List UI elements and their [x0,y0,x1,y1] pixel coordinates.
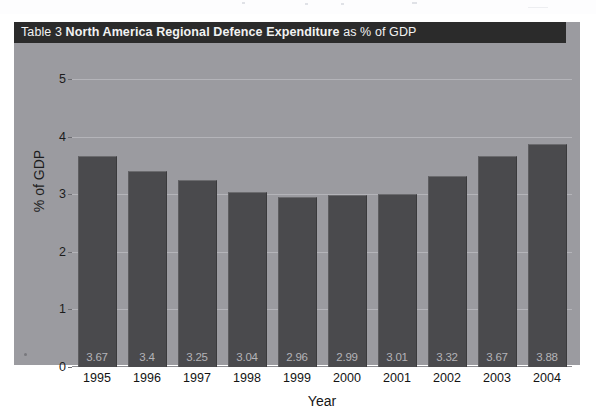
scan-dot-artifact [24,353,27,356]
x-axis-tick-label: 1995 [72,371,122,385]
bar[interactable]: 3.25 [178,180,217,367]
y-axis-tick-label: 5 [44,72,66,86]
y-axis-tick-label: 4 [44,130,66,144]
x-axis-tick-label: 2002 [422,371,472,385]
bar-value-label: 3.67 [79,351,116,363]
bar[interactable]: 2.99 [328,195,367,367]
bar-value-label: 3.04 [229,351,266,363]
bar-slot: 2.961999 [272,79,322,367]
x-axis-tick-label: 2000 [322,371,372,385]
table-label: Table 3 [21,25,62,39]
bar-slot: 2.992000 [322,79,372,367]
bar[interactable]: 3.32 [428,176,467,367]
y-axis-tick-label: 0 [44,360,66,374]
x-axis-tick-label: 1999 [272,371,322,385]
chart-figure: Table 3 North America Regional Defence E… [14,22,580,365]
x-axis-tick-label: 2003 [472,371,522,385]
x-axis-tick-label: 1998 [222,371,272,385]
bar-slot: 3.41996 [122,79,172,367]
bar-value-label: 3.25 [179,351,216,363]
x-axis-tick-label: 2001 [372,371,422,385]
y-axis-tick-mark [68,367,72,368]
bar-value-label: 3.88 [529,351,566,363]
bar-value-label: 3.01 [379,351,416,363]
x-axis-tick-label: 1997 [172,371,222,385]
y-axis-title: % of GDP [31,136,47,226]
bar[interactable]: 3.67 [478,156,517,367]
bar-value-label: 3.32 [429,351,466,363]
plot-area: 3.6719953.419963.2519973.0419982.9619992… [72,79,572,367]
bar[interactable]: 3.04 [228,192,267,367]
bar-slot: 3.012001 [372,79,422,367]
bar-series: 3.6719953.419963.2519973.0419982.9619992… [72,79,572,367]
bar-value-label: 2.96 [279,351,316,363]
bar[interactable]: 3.67 [78,156,117,367]
chart-title-bold: North America Regional Defence Expenditu… [66,25,340,39]
chart-title-bar: Table 3 North America Regional Defence E… [14,22,566,43]
bar-slot: 3.322002 [422,79,472,367]
x-axis-tick-label: 2004 [522,371,572,385]
bar[interactable]: 3.88 [528,144,567,367]
plot-wrapper: % of GDP 012345 3.6719953.419963.2519973… [14,43,580,365]
y-axis-tick-label: 1 [44,302,66,316]
bar-slot: 3.041998 [222,79,272,367]
bar[interactable]: 3.01 [378,194,417,367]
x-axis-title: Year [72,393,572,409]
bar-slot: 3.671995 [72,79,122,367]
x-axis-tick-label: 1996 [122,371,172,385]
chart-title-suffix: as % of GDP [343,25,416,39]
scan-artifact-strip [0,0,596,14]
y-axis-tick-label: 3 [44,187,66,201]
bar[interactable]: 2.96 [278,197,317,367]
bar-slot: 3.882004 [522,79,572,367]
y-axis-tick-label: 2 [44,245,66,259]
bar-value-label: 3.4 [129,351,166,363]
bar-value-label: 3.67 [479,351,516,363]
bar-slot: 3.251997 [172,79,222,367]
bar[interactable]: 3.4 [128,171,167,367]
bar-slot: 3.672003 [472,79,522,367]
bar-value-label: 2.99 [329,351,366,363]
